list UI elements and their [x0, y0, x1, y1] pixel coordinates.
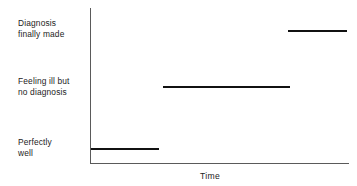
step-segment-feeling-ill [163, 86, 290, 88]
x-axis-title: Time [90, 171, 330, 181]
y-category-label-perfectly-well: Perfectly well [18, 137, 86, 159]
step-segment-perfectly-well [91, 148, 159, 150]
y-axis-line [90, 8, 91, 164]
y-category-label-diagnosis-made: Diagnosis finally made [18, 18, 86, 40]
chart-canvas: Diagnosis finally made Feeling ill but n… [0, 0, 357, 186]
y-category-label-feeling-ill: Feeling ill but no diagnosis [18, 76, 86, 98]
x-axis-line [90, 163, 349, 164]
step-segment-diagnosis-made [288, 30, 347, 32]
